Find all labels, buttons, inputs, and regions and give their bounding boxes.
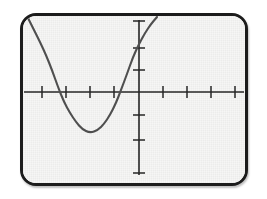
calculator-screen-frame — [20, 13, 248, 186]
calculator-screen-surface — [23, 16, 245, 183]
screenshot-root — [0, 0, 267, 199]
x-axis-group — [24, 86, 244, 98]
graph-plot-area — [23, 16, 245, 183]
